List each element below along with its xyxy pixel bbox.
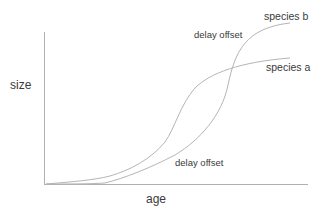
species-a-curve <box>46 58 290 184</box>
x-axis-label: age <box>146 193 166 205</box>
species-b-label: species b <box>264 11 308 22</box>
species-b-curve <box>46 23 290 184</box>
y-axis-label: size <box>10 79 31 91</box>
species-a-label: species a <box>266 62 310 73</box>
delay-offset-bottom-label: delay offset <box>175 158 223 168</box>
delay-offset-top-label: delay offset <box>194 30 242 40</box>
growth-curve-diagram <box>0 0 318 211</box>
